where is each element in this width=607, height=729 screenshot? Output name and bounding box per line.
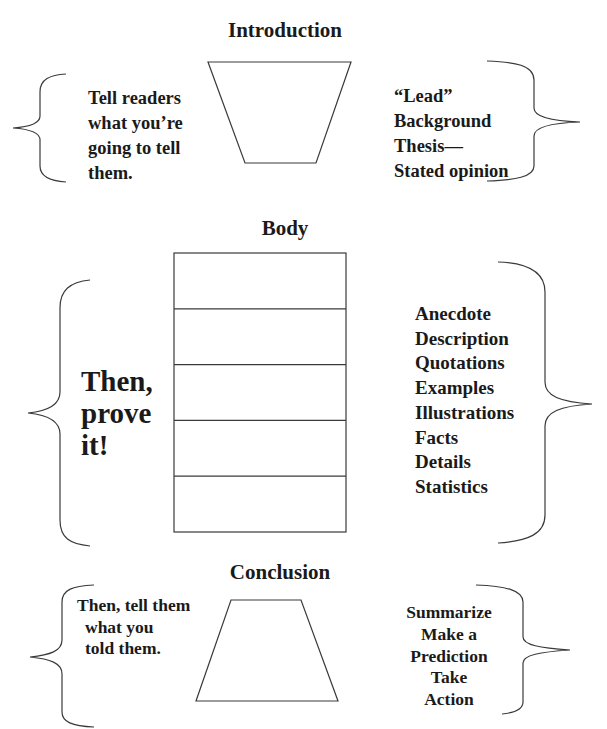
body-paragraph-stack [174, 253, 346, 532]
introduction-right-line: “Lead” [394, 84, 509, 109]
conclusion-right-line: Prediction [389, 646, 509, 668]
introduction-right-line: Thesis— [394, 134, 509, 159]
conclusion-trapezoid [196, 600, 338, 701]
body-support-item: Illustrations [415, 401, 514, 426]
introduction-inverted-trapezoid [208, 62, 351, 163]
conclusion-right-line: Make a [389, 624, 509, 646]
conclusion-left-line: what you [77, 617, 190, 639]
body-support-item: Statistics [415, 475, 514, 500]
conclusion-right-line: Action [389, 689, 509, 711]
introduction-right-text: “Lead” Background Thesis— Stated opinion [394, 84, 509, 184]
conclusion-heading: Conclusion [200, 560, 360, 584]
body-left-text: Then, prove it! [81, 365, 153, 461]
body-support-item: Description [415, 327, 514, 352]
conclusion-left-line: Then, tell them [77, 595, 190, 617]
introduction-left-line: Tell readers [88, 86, 183, 111]
introduction-right-line: Stated opinion [394, 159, 509, 184]
conclusion-left-text: Then, tell them what you told them. [77, 595, 190, 660]
conclusion-right-line: Summarize [389, 602, 509, 624]
introduction-left-line: what you’re [88, 111, 183, 136]
body-support-list: Anecdote Description Quotations Examples… [415, 302, 514, 500]
body-heading: Body [220, 216, 350, 240]
body-left-line: Then, [81, 365, 153, 397]
body-left-line: it! [81, 429, 153, 461]
introduction-left-text: Tell readers what you’re going to tell t… [88, 86, 183, 186]
body-support-item: Anecdote [415, 302, 514, 327]
introduction-left-line: them. [88, 161, 183, 186]
body-left-line: prove [81, 397, 153, 429]
body-support-item: Facts [415, 426, 514, 451]
conclusion-right-line: Take [389, 667, 509, 689]
introduction-right-line: Background [394, 109, 509, 134]
introduction-heading: Introduction [220, 18, 350, 42]
conclusion-right-text: Summarize Make a Prediction Take Action [389, 602, 509, 711]
conclusion-left-line: told them. [77, 638, 190, 660]
introduction-left-brace [13, 74, 66, 182]
introduction-left-line: going to tell [88, 136, 183, 161]
body-support-item: Quotations [415, 351, 514, 376]
body-support-item: Examples [415, 376, 514, 401]
body-support-item: Details [415, 450, 514, 475]
